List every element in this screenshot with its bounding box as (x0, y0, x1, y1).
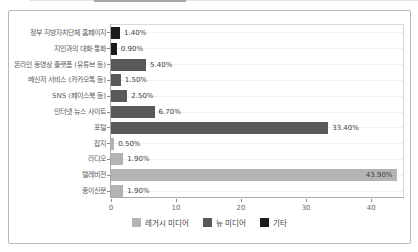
legend-swatch-legacy (132, 218, 141, 227)
legend-item-legacy: 레거시 미디어 (132, 217, 189, 228)
top-crop-artifact-fragment (94, 0, 186, 2)
y-axis-labels: 정부 지방자치단체 홈페이지지인과의 대화·통화온라인 동영상 플랫폼 (유튜브… (13, 24, 106, 198)
bar-value-label: 1.50% (125, 76, 147, 84)
x-axis-tick-label: 0 (109, 204, 113, 212)
bar-value-label: 43.90% (366, 171, 393, 179)
gridline (111, 48, 403, 49)
category-label: 텔레비전 (82, 169, 106, 179)
category-label: 잡지 (94, 138, 106, 148)
legend-label: 기타 (273, 217, 287, 228)
bar-value-label: 5.40% (150, 61, 172, 69)
bar-value-label: 2.50% (131, 92, 153, 100)
bar-new (111, 122, 328, 134)
legend-swatch-new (203, 218, 212, 227)
legend: 레거시 미디어뉴 미디어기타 (9, 217, 410, 228)
x-axis-tick-label: 30 (302, 204, 311, 212)
y-axis-tick (107, 112, 110, 113)
y-axis-tick (107, 80, 110, 81)
bar-legacy (111, 153, 123, 165)
y-axis-tick (107, 143, 110, 144)
category-label: 지인과의 대화·통화 (54, 43, 106, 53)
legend-label: 뉴 미디어 (216, 217, 246, 228)
category-label: SNS (페이스북 등) (52, 90, 106, 100)
bar-legacy (111, 138, 114, 150)
bar-other (111, 27, 120, 39)
bar-new (111, 59, 146, 71)
legend-item-new: 뉴 미디어 (203, 217, 246, 228)
gridline (111, 112, 403, 113)
x-axis-tick (306, 199, 307, 202)
x-axis-tick (176, 199, 177, 202)
category-label: 라디오 (88, 153, 106, 163)
gridline (111, 143, 403, 144)
x-axis-tick-label: 20 (237, 204, 246, 212)
y-axis-tick (107, 32, 110, 33)
y-axis-tick (107, 175, 110, 176)
category-label: 온라인 동영상 플랫폼 (유튜브 등) (14, 59, 106, 69)
bar-value-label: 0.90% (121, 45, 143, 53)
category-label: 메신저 서비스 (카카오톡 등) (28, 74, 106, 84)
legend-swatch-other (260, 218, 269, 227)
bar-other (111, 43, 117, 55)
legend-item-other: 기타 (260, 217, 287, 228)
bar-new (111, 90, 127, 102)
y-axis-tick (107, 127, 110, 128)
category-label: 인터넷 뉴스 사이트 (54, 106, 106, 116)
top-crop-artifact-line (30, 0, 418, 1)
bar-value-label: 1.90% (127, 187, 149, 195)
category-label: 정부 지방자치단체 홈페이지 (30, 27, 106, 37)
x-axis-tick-label: 10 (172, 204, 181, 212)
x-axis-tick-label: 40 (367, 204, 376, 212)
category-label: 종이신문 (82, 185, 106, 195)
legend-label: 레거시 미디어 (145, 217, 189, 228)
bar-legacy (111, 169, 397, 181)
y-axis-tick (107, 159, 110, 160)
x-axis-tick (111, 199, 112, 202)
x-axis-tick (371, 199, 372, 202)
gridline (111, 159, 403, 160)
y-axis-tick (107, 191, 110, 192)
bar-value-label: 1.40% (124, 29, 146, 37)
gridline (111, 80, 403, 81)
bar-value-label: 1.90% (127, 155, 149, 163)
gridline (111, 32, 403, 33)
bar-value-label: 33.40% (332, 124, 359, 132)
gridline (111, 191, 403, 192)
gridline (111, 96, 403, 97)
bar-value-label: 0.50% (118, 140, 140, 148)
x-axis-tick (241, 199, 242, 202)
y-axis-tick (107, 96, 110, 97)
plot-area: 1.40%0.90%5.40%1.50%2.50%6.70%33.40%0.50… (110, 24, 404, 198)
y-axis-tick (107, 64, 110, 65)
chart-frame: 정부 지방자치단체 홈페이지지인과의 대화·통화온라인 동영상 플랫폼 (유튜브… (8, 10, 411, 244)
bar-value-label: 6.70% (159, 108, 181, 116)
y-axis-tick (107, 48, 110, 49)
bar-legacy (111, 185, 123, 197)
category-label: 포털 (94, 122, 106, 132)
bar-new (111, 74, 121, 86)
bar-new (111, 106, 155, 118)
